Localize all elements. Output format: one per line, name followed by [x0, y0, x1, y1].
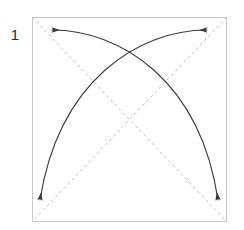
fold-diagram-svg — [0, 0, 244, 230]
origami-step-diagram: 1 — [0, 0, 244, 230]
